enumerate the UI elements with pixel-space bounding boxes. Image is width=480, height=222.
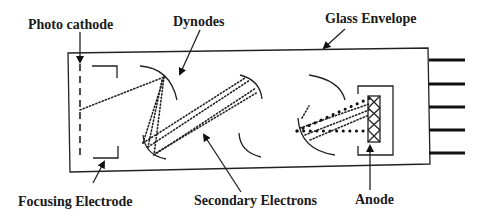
secondary-electrons-label: Secondary Electrons <box>194 193 318 208</box>
label-arrows <box>80 29 370 192</box>
glass-envelope-label: Glass Envelope <box>325 11 416 26</box>
anode-label: Anode <box>355 192 394 207</box>
glass-envelope-arrow <box>324 29 345 48</box>
anode <box>358 86 393 155</box>
secondary-electrons-arrow <box>204 135 241 192</box>
secondary-electrons <box>80 77 370 155</box>
photomultiplier-diagram: Photo cathode Dynodes Glass Envelope Foc… <box>0 0 480 222</box>
focusing-electrode-label: Focusing Electrode <box>18 194 132 209</box>
glass-envelope <box>68 48 430 172</box>
photo-cathode-label: Photo cathode <box>28 17 113 32</box>
connector-pins <box>429 60 465 153</box>
focusing-electrode <box>92 66 118 158</box>
focusing-electrode-arrow <box>93 162 104 183</box>
dynodes-label: Dynodes <box>173 14 225 29</box>
